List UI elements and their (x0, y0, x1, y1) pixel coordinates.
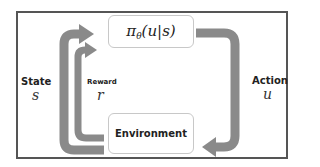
policy-label: πθ(u|s) (126, 22, 175, 41)
state-label: State (21, 76, 51, 87)
reward-label: Reward (87, 78, 117, 86)
reward-symbol: r (97, 87, 104, 103)
environment-box: Environment (108, 113, 194, 154)
environment-label: Environment (115, 128, 187, 139)
state-symbol: s (32, 87, 39, 103)
action-symbol: u (263, 86, 272, 102)
action-label: Action (252, 75, 288, 86)
policy-box: πθ(u|s) (108, 15, 194, 48)
action-arrow (196, 33, 235, 157)
